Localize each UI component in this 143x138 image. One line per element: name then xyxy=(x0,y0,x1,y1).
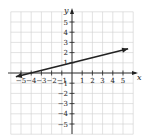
x-tick-label: 4 xyxy=(111,77,116,85)
x-tick-label: −2 xyxy=(46,77,56,85)
x-axis-label: x xyxy=(137,73,142,82)
x-tick-label: 1 xyxy=(80,77,84,85)
y-tick-label: −1 xyxy=(58,80,68,88)
y-tick-label: −3 xyxy=(58,100,68,108)
x-tick-label: 2 xyxy=(90,77,94,85)
x-tick-label: 3 xyxy=(100,77,104,85)
y-axis-arrow-icon xyxy=(70,8,74,14)
y-tick-label: 2 xyxy=(64,49,68,57)
x-tick-label: −3 xyxy=(36,77,46,85)
x-tick-label: 5 xyxy=(121,77,125,85)
x-tick-label: −5 xyxy=(16,77,26,85)
y-tick-label: 4 xyxy=(64,29,69,37)
y-tick-label: 5 xyxy=(64,19,68,27)
y-axis-label: y xyxy=(63,6,69,15)
coordinate-plane: x y −5−4−3−2−112345 54321−1−2−3−4−5 xyxy=(0,0,143,138)
y-tick-label: −5 xyxy=(58,121,68,129)
y-tick-label: −4 xyxy=(58,110,69,118)
y-tick-label: 3 xyxy=(64,39,68,47)
y-tick-label: −2 xyxy=(58,90,68,98)
